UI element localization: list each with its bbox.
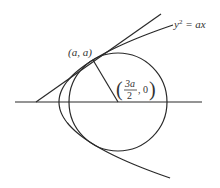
diagram-canvas: y2 = ax (a, a) ( 3a 2 , 0 ) [0,0,220,188]
radius-line [93,60,118,102]
diagram-svg: y2 = ax (a, a) ( 3a 2 , 0 ) [0,0,220,188]
center-label: ( 3a 2 , 0 ) [116,78,156,101]
svg-text:2: 2 [127,90,132,101]
svg-text:, 0: , 0 [138,84,148,95]
curve-label: y2 = ax [173,18,206,30]
svg-text:): ) [149,78,156,101]
svg-text:(: ( [116,78,123,101]
point-label: (a, a) [68,46,92,59]
svg-text:3a: 3a [124,78,135,89]
